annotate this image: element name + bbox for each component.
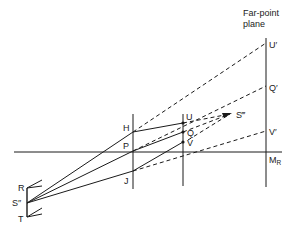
point-u [181, 121, 184, 124]
ray-j-v [133, 142, 183, 171]
label-s3: S‴ [236, 110, 246, 120]
optics-diagram: Far-point plane U′ Q′ V′ MR S‴ U Q V H P… [0, 0, 296, 231]
arrowhead-s3 [222, 113, 232, 118]
point-q [181, 130, 184, 133]
ray-p-q [133, 132, 183, 151]
ray-j-v1 [133, 131, 266, 171]
label-j: J [124, 176, 129, 186]
label-p: P [123, 141, 129, 151]
ray-s2-h [27, 132, 133, 203]
label-v: V [187, 138, 193, 148]
ray-s2-p [27, 151, 133, 203]
label-t: T [18, 214, 24, 224]
label-plane: plane [243, 19, 265, 29]
label-r: R [18, 183, 25, 193]
label-v1: V′ [269, 127, 277, 137]
label-s2: S″ [12, 198, 22, 208]
point-v [181, 140, 184, 143]
ray-v-s3 [188, 114, 230, 140]
label-u: U [186, 112, 193, 122]
label-h: H [123, 123, 130, 133]
label-u1: U′ [269, 40, 277, 50]
label-q: Q [187, 128, 194, 138]
ray-s2-j [27, 171, 133, 203]
label-far-point: Far-point [243, 8, 280, 18]
label-mr: MR [269, 155, 282, 166]
label-q1: Q′ [269, 83, 278, 93]
